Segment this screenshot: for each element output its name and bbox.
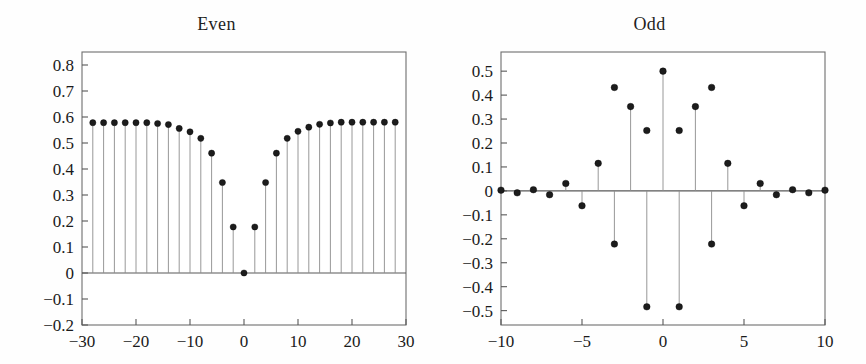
- y-tick-label: −0.4: [462, 278, 493, 297]
- x-tick-label: 0: [240, 332, 249, 351]
- y-tick-label: 0.7: [53, 82, 75, 101]
- x-tick-label: −5: [573, 332, 591, 351]
- data-point-marker: [692, 103, 699, 110]
- chart-panel-odd: Odd −0.5−0.4−0.3−0.2−0.100.10.20.30.40.5…: [433, 0, 866, 364]
- x-tick-label: 20: [344, 332, 361, 351]
- data-point-marker: [155, 120, 161, 126]
- y-tick-label: 0.8: [53, 56, 74, 75]
- y-tick-label: 0.1: [53, 238, 74, 257]
- data-point-marker: [90, 120, 96, 126]
- y-tick-label: 0.4: [472, 86, 494, 105]
- data-point-marker: [789, 186, 796, 193]
- data-point-marker: [757, 180, 764, 187]
- data-point-marker: [595, 160, 602, 167]
- data-point-marker: [101, 120, 107, 126]
- data-point-marker: [198, 135, 204, 141]
- data-point-marker: [252, 224, 258, 230]
- data-point-marker: [676, 304, 683, 311]
- data-point-marker: [627, 103, 634, 110]
- y-tick-label: 0.3: [53, 186, 74, 205]
- data-point-marker: [187, 129, 193, 135]
- data-point-marker: [498, 187, 505, 194]
- y-tick-label: 0.6: [53, 108, 74, 127]
- data-point-marker: [725, 160, 732, 167]
- data-point-marker: [295, 128, 301, 134]
- y-tick-label: −0.3: [462, 254, 493, 273]
- data-point-marker: [530, 186, 537, 193]
- data-point-marker: [144, 120, 150, 126]
- y-tick-label: 0.1: [472, 158, 493, 177]
- data-point-marker: [644, 304, 651, 311]
- data-point-marker: [708, 241, 715, 248]
- data-point-marker: [360, 119, 366, 125]
- x-tick-label: −20: [123, 332, 150, 351]
- data-point-marker: [122, 120, 128, 126]
- data-point-marker: [176, 125, 182, 131]
- data-point-marker: [708, 84, 715, 91]
- data-point-marker: [806, 190, 813, 197]
- data-point-marker: [611, 84, 618, 91]
- data-point-marker: [306, 124, 312, 130]
- y-tick-label: 0.3: [472, 110, 493, 129]
- data-point-marker: [371, 119, 377, 125]
- data-point-marker: [209, 150, 215, 156]
- stem-plot-even: −0.2−0.100.10.20.30.40.50.60.70.8−30−20−…: [0, 0, 433, 364]
- y-tick-label: −0.1: [43, 290, 74, 309]
- y-tick-label: 0: [66, 264, 75, 283]
- x-tick-label: −10: [488, 332, 515, 351]
- x-tick-label: 10: [817, 332, 834, 351]
- data-point-marker: [273, 150, 279, 156]
- data-point-marker: [514, 190, 521, 197]
- data-point-marker: [219, 179, 225, 185]
- data-point-marker: [111, 120, 117, 126]
- x-tick-label: 0: [659, 332, 668, 351]
- data-point-marker: [563, 180, 570, 187]
- data-point-marker: [773, 191, 780, 198]
- stem-plot-odd: −0.5−0.4−0.3−0.2−0.100.10.20.30.40.5−10−…: [433, 0, 866, 364]
- y-tick-label: 0.5: [472, 62, 493, 81]
- x-tick-label: 30: [398, 332, 415, 351]
- data-point-marker: [676, 127, 683, 134]
- data-point-marker: [741, 202, 748, 209]
- data-point-marker: [327, 120, 333, 126]
- y-tick-label: −0.2: [462, 230, 493, 249]
- y-tick-label: 0.2: [53, 212, 74, 231]
- data-point-marker: [822, 187, 829, 194]
- y-tick-label: 0: [485, 182, 494, 201]
- data-point-marker: [284, 135, 290, 141]
- data-point-marker: [133, 120, 139, 126]
- x-tick-label: −30: [69, 332, 96, 351]
- data-point-marker: [165, 121, 171, 127]
- data-point-marker: [381, 119, 387, 125]
- data-point-marker: [392, 119, 398, 125]
- data-point-marker: [338, 119, 344, 125]
- data-point-marker: [546, 191, 553, 198]
- y-tick-label: −0.5: [462, 302, 493, 321]
- data-point-marker: [660, 68, 667, 75]
- y-tick-label: 0.4: [53, 160, 75, 179]
- x-tick-label: −10: [177, 332, 204, 351]
- figure-root: Even −0.2−0.100.10.20.30.40.50.60.70.8−3…: [0, 0, 866, 364]
- data-point-marker: [317, 121, 323, 127]
- y-tick-label: −0.1: [462, 206, 493, 225]
- data-point-marker: [611, 241, 618, 248]
- data-point-marker: [349, 119, 355, 125]
- x-tick-label: 5: [740, 332, 749, 351]
- x-tick-label: 10: [290, 332, 307, 351]
- chart-panel-even: Even −0.2−0.100.10.20.30.40.50.60.70.8−3…: [0, 0, 433, 364]
- data-point-marker: [644, 127, 651, 134]
- data-point-marker: [263, 179, 269, 185]
- y-tick-label: 0.2: [472, 134, 493, 153]
- data-point-marker: [230, 224, 236, 230]
- y-tick-label: 0.5: [53, 134, 74, 153]
- plot-frame: [82, 52, 406, 325]
- data-point-marker: [241, 270, 247, 276]
- data-point-marker: [579, 202, 586, 209]
